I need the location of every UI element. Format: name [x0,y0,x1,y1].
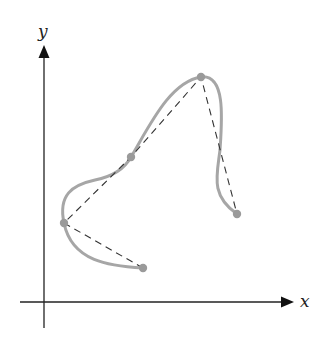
x-axis: x [20,291,310,311]
y-axis-arrowhead-icon [39,45,50,58]
control-point-p4 [233,210,241,218]
spline-diagram: x y [0,0,333,341]
control-polygon [64,77,237,268]
y-axis-label: y [37,21,48,41]
control-point-p2 [127,153,135,161]
control-points [60,73,241,272]
spline-curve [63,77,237,268]
x-axis-label: x [300,291,310,311]
control-point-p1 [60,219,68,227]
x-axis-arrowhead-icon [281,297,294,308]
y-axis: y [37,21,50,328]
control-point-p3 [197,73,205,81]
control-point-p0 [139,264,147,272]
